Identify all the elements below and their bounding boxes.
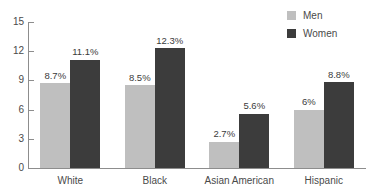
bar-value-label: 5.6% (243, 101, 265, 111)
bar-value-label: 6% (302, 97, 316, 107)
legend-label-men: Men (303, 11, 322, 21)
bar: 11.1% (70, 60, 100, 168)
plot-area: 03691215 8.7%11.1%8.5%12.3%2.7%5.6%6%8.8… (28, 22, 366, 168)
bar-value-label: 11.1% (72, 47, 98, 57)
bar-value-label: 2.7% (213, 129, 235, 139)
y-axis-tick-label: 0 (18, 163, 24, 173)
bar-value-label: 8.7% (44, 71, 66, 81)
bar-value-label: 12.3% (156, 36, 183, 46)
x-axis-category-label: Asian American (205, 176, 274, 186)
y-axis-tick-label: 12 (13, 46, 24, 56)
bars-layer: 8.7%11.1%8.5%12.3%2.7%5.6%6%8.8% (28, 22, 366, 168)
bar-value-label: 8.8% (328, 70, 350, 80)
x-axis-line (28, 168, 366, 169)
bar-value-label: 8.5% (129, 73, 151, 83)
legend-swatch-men (287, 11, 296, 20)
y-axis-tick-label: 6 (18, 105, 24, 115)
legend-item-men: Men (287, 8, 367, 23)
x-axis-category-label: Hispanic (305, 176, 343, 186)
y-axis-tick-label: 15 (13, 17, 24, 27)
y-axis-tick-label: 3 (18, 134, 24, 144)
x-axis-category-label: Black (143, 176, 167, 186)
y-axis-tick-label: 9 (18, 75, 24, 85)
bar: 2.7% (209, 142, 239, 168)
bar: 8.5% (125, 85, 155, 168)
bar: 12.3% (155, 48, 185, 168)
bar-chart: Men Women 03691215 8.7%11.1%8.5%12.3%2.7… (0, 0, 370, 192)
bar: 8.7% (40, 83, 70, 168)
y-axis-tick-mark (29, 168, 34, 169)
bar: 8.8% (324, 82, 354, 168)
bar: 5.6% (239, 114, 269, 169)
bar: 6% (294, 110, 324, 168)
x-axis-category-label: White (57, 176, 83, 186)
